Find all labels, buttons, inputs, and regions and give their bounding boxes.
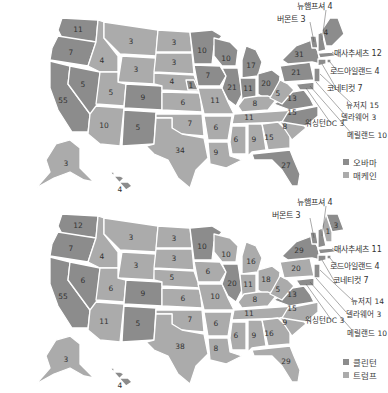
svg-text:20: 20 (261, 79, 271, 88)
svg-text:15: 15 (287, 108, 297, 117)
svg-text:3: 3 (64, 159, 69, 168)
svg-text:3: 3 (134, 261, 139, 270)
svg-text:27: 27 (281, 161, 291, 170)
legend-label: 매케인 (353, 169, 377, 181)
svg-text:29: 29 (294, 246, 304, 255)
svg-text:4: 4 (100, 56, 105, 65)
svg-text:3: 3 (129, 233, 134, 242)
state-ct (318, 59, 326, 66)
svg-text:3: 3 (134, 65, 139, 74)
svg-text:3: 3 (172, 38, 177, 47)
callout-new-hampshire: 뉴햄프셔 4 (297, 198, 333, 208)
legend-item-dem: 클린턴 (343, 355, 377, 368)
svg-text:8: 8 (283, 122, 288, 131)
legend-label: 클린턴 (353, 356, 377, 368)
svg-text:6: 6 (81, 276, 86, 285)
state-nj (314, 68, 320, 82)
electoral-map-obama-mccain: 11 7 55 5 4 3 3 5 10 9 5 3 3 4 1 6 7 34 … (0, 0, 388, 196)
callout-maryland: 메릴랜드 10 (347, 329, 387, 339)
state-ct (318, 255, 326, 262)
legend-item-rep: 매케인 (343, 168, 377, 181)
svg-text:21: 21 (291, 68, 301, 77)
svg-text:15: 15 (264, 133, 274, 142)
svg-text:3: 3 (129, 37, 134, 46)
legend-swatch-rep (343, 372, 349, 378)
legend-item-rep: 트럼프 (343, 368, 377, 381)
svg-text:9: 9 (252, 331, 257, 340)
us-states-map: 11 7 55 5 4 3 3 5 10 9 5 3 3 4 1 6 7 34 … (0, 0, 388, 196)
svg-text:6: 6 (181, 294, 186, 303)
svg-text:4: 4 (100, 252, 105, 261)
state-fl (252, 346, 300, 382)
svg-text:11: 11 (99, 317, 109, 326)
legend-swatch-rep (343, 172, 349, 178)
svg-text:9: 9 (252, 135, 257, 144)
legend: 클린턴 트럼프 (343, 355, 377, 381)
svg-text:5: 5 (276, 285, 281, 294)
svg-text:13: 13 (287, 94, 297, 103)
svg-text:6: 6 (109, 284, 114, 293)
svg-text:16: 16 (264, 329, 274, 338)
state-md (296, 278, 314, 286)
svg-text:31: 31 (294, 50, 304, 59)
callout-maryland: 메릴랜드 10 (347, 131, 387, 141)
callout-rhode-island: 로드아일랜드 4 (330, 67, 380, 77)
svg-text:20: 20 (291, 264, 301, 273)
callout-washington-dc: 워싱턴DC 3 (305, 316, 344, 326)
state-md (296, 82, 314, 90)
svg-text:10: 10 (197, 46, 207, 55)
svg-text:9: 9 (283, 318, 288, 327)
svg-text:1: 1 (189, 81, 194, 90)
svg-text:9: 9 (141, 289, 146, 298)
svg-text:11: 11 (244, 309, 254, 318)
svg-text:4: 4 (118, 381, 123, 390)
svg-text:6: 6 (234, 331, 239, 340)
svg-text:34: 34 (175, 146, 185, 155)
svg-text:8: 8 (253, 295, 258, 304)
svg-text:18: 18 (261, 275, 271, 284)
svg-text:11: 11 (243, 84, 253, 93)
svg-text:3: 3 (334, 221, 339, 230)
svg-text:5: 5 (136, 123, 141, 132)
callout-delaware: 델라웨어 3 (346, 310, 381, 320)
callout-delaware: 델라웨어 3 (341, 113, 376, 123)
svg-text:6: 6 (206, 267, 211, 276)
svg-text:11: 11 (244, 113, 254, 122)
svg-text:55: 55 (58, 96, 68, 105)
legend-label: 오바마 (353, 156, 377, 168)
svg-text:4: 4 (170, 77, 175, 86)
svg-text:8: 8 (253, 99, 258, 108)
state-fl (252, 150, 300, 186)
svg-text:13: 13 (287, 290, 297, 299)
svg-text:5: 5 (276, 89, 281, 98)
svg-text:10: 10 (221, 250, 231, 259)
svg-text:17: 17 (246, 61, 256, 70)
svg-text:10: 10 (210, 292, 220, 301)
svg-text:5: 5 (109, 88, 114, 97)
callout-new-jersey: 뉴저지 15 (346, 101, 379, 111)
svg-text:8: 8 (214, 344, 219, 353)
callout-washington-dc: 워싱턴DC 3 (305, 119, 344, 129)
svg-text:4: 4 (324, 28, 329, 37)
legend-item-dem: 오바마 (343, 155, 377, 168)
svg-text:6: 6 (214, 319, 219, 328)
svg-text:10: 10 (221, 54, 231, 63)
svg-text:12: 12 (73, 221, 83, 230)
svg-text:16: 16 (246, 257, 256, 266)
svg-text:5: 5 (81, 80, 86, 89)
callout-vermont: 버몬트 3 (277, 15, 306, 25)
svg-text:9: 9 (141, 93, 146, 102)
svg-text:7: 7 (206, 71, 211, 80)
us-states-map: 12 7 55 6 4 3 3 6 11 9 5 3 3 5 6 7 38 10… (0, 196, 388, 392)
legend-swatch-dem (343, 359, 349, 365)
svg-text:15: 15 (287, 304, 297, 313)
state-nj (314, 264, 320, 278)
svg-text:9: 9 (214, 148, 219, 157)
electoral-map-clinton-trump: 12 7 55 6 4 3 3 6 11 9 5 3 3 5 6 7 38 10… (0, 196, 388, 392)
svg-text:6: 6 (181, 98, 186, 107)
callout-new-hampshire: 뉴햄프셔 4 (297, 2, 333, 12)
svg-text:21: 21 (227, 83, 237, 92)
svg-text:11: 11 (210, 96, 220, 105)
svg-text:3: 3 (64, 355, 69, 364)
svg-text:20: 20 (227, 279, 237, 288)
